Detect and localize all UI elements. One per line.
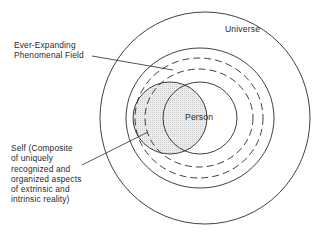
self-label: Self (Composite of uniquely recognized a… [11, 143, 82, 205]
self-label-line: recognized and [11, 164, 82, 174]
phenomenal-field-label-line: Ever-Expanding [14, 40, 84, 50]
self-label-line: of extrinsic and [11, 184, 82, 194]
phenomenal-field-label-line: Phenomenal Field [14, 50, 84, 60]
universe-label: Universe [225, 24, 260, 34]
phenomenal-field-label: Ever-Expanding Phenomenal Field [14, 40, 84, 61]
self-label-line: intrinsic reality) [11, 194, 82, 204]
self-label-line: organized aspects [11, 174, 82, 184]
self-label-line: Self (Composite [11, 143, 82, 153]
self-leader-line [82, 132, 148, 165]
person-label: Person [185, 112, 213, 122]
self-label-line: of uniquely [11, 153, 82, 163]
